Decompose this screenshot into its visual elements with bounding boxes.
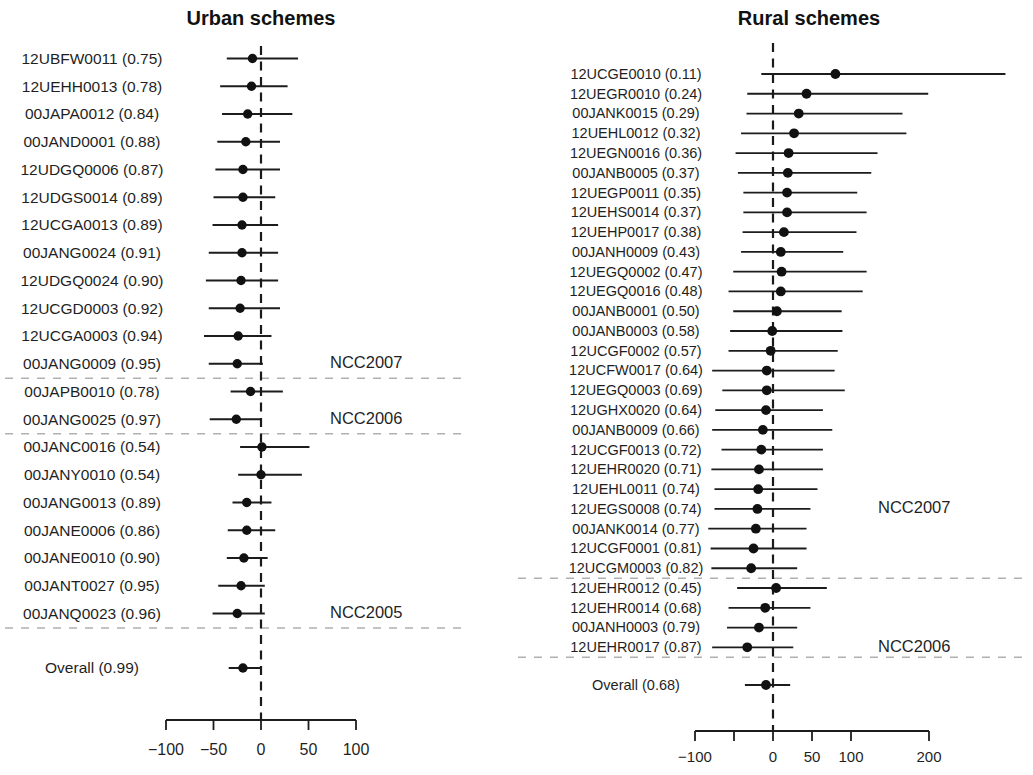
point-estimate-dot <box>831 69 841 79</box>
row-label: 12UEHL0011 (0.74) <box>572 481 700 497</box>
row-label: 12UCGA0003 (0.94) <box>21 327 162 344</box>
row-label: 12UGHX0020 (0.64) <box>570 402 702 418</box>
point-estimate-dot <box>234 331 243 340</box>
point-estimate-dot <box>783 168 793 178</box>
point-estimate-dot <box>257 442 266 451</box>
point-estimate-dot <box>232 415 241 424</box>
point-estimate-dot <box>779 227 789 237</box>
point-estimate-dot <box>242 498 251 507</box>
urban-panel-title: Urban schemes <box>187 7 336 29</box>
row-label: 00JANT0027 (0.95) <box>24 577 159 594</box>
point-estimate-dot <box>236 581 245 590</box>
row-label: 00JAPB0010 (0.78) <box>24 383 159 400</box>
point-estimate-dot <box>753 504 763 514</box>
point-estimate-dot <box>766 346 776 356</box>
group-label-ncc2006: NCC2006 <box>878 637 950 655</box>
forest-plot-figure: Urban schemes Rural schemes 12UBFW0011 (… <box>0 0 1033 775</box>
point-estimate-dot <box>242 526 251 535</box>
x-axis-tick-label: 200 <box>916 748 941 765</box>
row-label: 00JANB0009 (0.66) <box>572 422 699 438</box>
row-label: 00JANG0009 (0.95) <box>23 355 161 372</box>
point-estimate-dot <box>247 82 256 91</box>
row-label: 12UCGF0001 (0.81) <box>570 540 701 556</box>
point-estimate-dot <box>237 220 246 229</box>
row-label: 00JANG0013 (0.89) <box>23 494 161 511</box>
row-label: 00JANB0003 (0.58) <box>572 323 699 339</box>
x-axis-tick-label: −50 <box>200 741 227 758</box>
point-estimate-dot <box>749 544 759 554</box>
point-estimate-dot <box>758 425 768 435</box>
point-estimate-dot <box>760 603 770 613</box>
row-label: 00JANK0014 (0.77) <box>572 521 699 537</box>
point-estimate-dot <box>794 109 804 119</box>
row-label: 00JANB0005 (0.37) <box>572 165 699 181</box>
x-axis-tick-label: 100 <box>343 741 370 758</box>
point-estimate-dot <box>237 248 246 257</box>
row-label: 12UEGP0011 (0.35) <box>571 185 701 201</box>
point-estimate-dot <box>751 524 761 534</box>
row-label: 12UCFW0017 (0.64) <box>569 362 703 378</box>
point-estimate-dot <box>241 137 250 146</box>
row-label: 12UEHL0012 (0.32) <box>572 125 701 141</box>
point-estimate-dot <box>248 54 257 63</box>
row-label: 12UEGQ0002 (0.47) <box>570 264 703 280</box>
group-label-ncc2006: NCC2006 <box>330 409 402 427</box>
row-label-overall: Overall (0.68) <box>592 677 680 693</box>
row-label: 12UEHR0017 (0.87) <box>570 639 701 655</box>
point-estimate-dot <box>776 247 786 257</box>
point-estimate-dot <box>246 387 255 396</box>
row-label: 00JANE0006 (0.86) <box>24 522 160 539</box>
point-estimate-dot <box>772 306 782 316</box>
row-label: 12UCGF0013 (0.72) <box>570 442 701 458</box>
x-axis-tick-label: 0 <box>769 748 777 765</box>
point-estimate-dot <box>256 470 265 479</box>
point-estimate-dot <box>771 583 781 593</box>
row-label: 00JANB0001 (0.50) <box>572 303 699 319</box>
forest-plot-canvas: Urban schemes Rural schemes 12UBFW0011 (… <box>0 0 1033 775</box>
row-label: 12UEHP0017 (0.38) <box>571 224 702 240</box>
point-estimate-dot <box>782 188 792 198</box>
point-estimate-dot-overall <box>761 680 771 690</box>
row-label: 12UCGA0013 (0.89) <box>21 216 162 233</box>
row-label: 12UEHH0013 (0.78) <box>22 78 162 95</box>
point-estimate-dot <box>754 623 764 633</box>
point-estimate-dot <box>762 385 772 395</box>
row-label: 12UEGQ0016 (0.48) <box>570 283 703 299</box>
point-estimate-dot <box>746 563 756 573</box>
row-label: 00JANC0016 (0.54) <box>24 438 161 455</box>
row-label: 12UEGR0010 (0.24) <box>570 86 702 102</box>
point-estimate-dot <box>243 109 252 118</box>
row-label: 12UDGQ0006 (0.87) <box>20 161 163 178</box>
rural-panel-title: Rural schemes <box>738 7 880 29</box>
row-label: 12UEHR0012 (0.45) <box>570 580 701 596</box>
point-estimate-dot <box>238 193 247 202</box>
x-axis-tick-label: 50 <box>300 741 318 758</box>
row-label: 12UEGS0008 (0.74) <box>570 501 701 517</box>
point-estimate-dot <box>238 165 247 174</box>
row-label: 12UCGE0010 (0.11) <box>570 66 701 82</box>
row-label: 00JAND0001 (0.88) <box>24 133 161 150</box>
x-axis-tick-label: −100 <box>678 748 712 765</box>
row-label: 00JAPA0012 (0.84) <box>25 105 159 122</box>
row-label: 12UEHR0014 (0.68) <box>570 600 701 616</box>
point-estimate-dot <box>802 89 812 99</box>
row-label: 12UDGQ0024 (0.90) <box>20 272 163 289</box>
point-estimate-dot <box>756 445 766 455</box>
row-label: 12UCGF0002 (0.57) <box>570 343 701 359</box>
point-estimate-dot <box>754 465 764 475</box>
group-label-ncc2007: NCC2007 <box>878 498 950 516</box>
row-label: 12UCGD0003 (0.92) <box>21 300 163 317</box>
point-estimate-dot-overall <box>238 663 247 672</box>
point-estimate-dot <box>767 326 777 336</box>
x-axis-tick-label: 0 <box>257 741 266 758</box>
row-label: 12UBFW0011 (0.75) <box>22 50 163 67</box>
point-estimate-dot <box>239 553 248 562</box>
point-estimate-dot <box>789 128 799 138</box>
point-estimate-dot <box>233 609 242 618</box>
row-label: 00JANE0010 (0.90) <box>24 549 160 566</box>
x-axis-tick-label: 50 <box>804 748 821 765</box>
group-label-ncc2007: NCC2007 <box>330 353 402 371</box>
point-estimate-dot <box>762 366 772 376</box>
row-label: 12UEGQ0003 (0.69) <box>570 382 703 398</box>
point-estimate-dot <box>233 359 242 368</box>
